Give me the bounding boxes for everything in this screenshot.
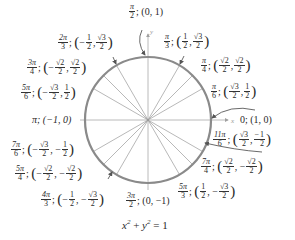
label-7pi-over-4: 7π4 ; ( √22 , − √22 ) xyxy=(200,158,263,175)
y-axis-label: y xyxy=(149,28,154,36)
label-11pi-over-6: 11π6 ; ( √32 , −2 12 ) xyxy=(212,131,271,148)
label-5pi-over-6: 5π6 ; (− √32 , 12 ) xyxy=(20,84,76,101)
label-7pi-over-6: 7π6 ; (− √32 , − 12 ) xyxy=(10,141,74,158)
label-pi-over-6: π6 ; ( √32 , 12 ) xyxy=(210,83,256,100)
label-pi-over-2: π2 ; (0, 1) xyxy=(128,3,163,20)
x-axis-label: x xyxy=(230,117,235,125)
label-5pi-over-4: 5π4 ; (− √22 , − √22 ) xyxy=(14,165,82,182)
circle-equation: x2 + y2 = 1 xyxy=(122,218,168,231)
label-3pi-over-4: 3π4 ; (− √22 , √22 ) xyxy=(26,59,86,76)
label-pi-over-3: π3 ; ( 12 , √32 ) xyxy=(163,33,209,50)
label-pi-over-4: π4 ; ( √22 , √22 ) xyxy=(200,57,251,74)
label-2pi-over-3: 2π3 ; (− 12 , √32 ) xyxy=(57,34,113,51)
label-4pi-over-3: 4π3 ; (− 12 , − √32 ) xyxy=(40,191,104,208)
label-3pi-over-2: 3π2 ; (0, −1) xyxy=(125,192,170,209)
label-zero: 0; (1, 0) xyxy=(240,115,272,125)
label-5pi-over-3: 5π3 ; ( 12 , − √32 ) xyxy=(177,183,235,200)
label-pi: π; (−1, 0) xyxy=(32,115,71,125)
